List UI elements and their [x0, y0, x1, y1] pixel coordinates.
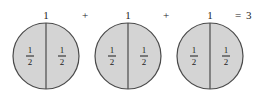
- whole-label-2: 1: [121, 10, 135, 21]
- whole-circle-1: 1 2 1 2: [12, 22, 80, 90]
- fraction-3-left: 1 2: [186, 46, 202, 67]
- fraction-1-left: 1 2: [22, 46, 38, 67]
- fraction-denominator: 2: [22, 57, 38, 67]
- fraction-denominator: 2: [54, 57, 70, 67]
- fraction-numerator: 1: [22, 46, 38, 56]
- fraction-numerator: 1: [104, 46, 120, 56]
- fraction-denominator: 2: [104, 57, 120, 67]
- fraction-numerator: 1: [218, 46, 234, 56]
- whole-label-1: 1: [39, 10, 53, 21]
- fraction-2-right: 1 2: [136, 46, 152, 67]
- whole-circle-2: 1 2 1 2: [94, 22, 162, 90]
- plus-operator-2: +: [159, 10, 173, 21]
- fraction-addition-figure: 1 + 1 + 1 = 3 1 2 1 2 1 2: [0, 0, 270, 100]
- fraction-numerator: 1: [136, 46, 152, 56]
- fraction-numerator: 1: [186, 46, 202, 56]
- whole-circle-3: 1 2 1 2: [176, 22, 244, 90]
- fraction-2-left: 1 2: [104, 46, 120, 67]
- fraction-denominator: 2: [136, 57, 152, 67]
- fraction-numerator: 1: [54, 46, 70, 56]
- whole-label-3: 1: [203, 10, 217, 21]
- result-label: = 3: [235, 10, 265, 21]
- plus-operator-1: +: [78, 10, 92, 21]
- fraction-denominator: 2: [218, 57, 234, 67]
- fraction-denominator: 2: [186, 57, 202, 67]
- fraction-3-right: 1 2: [218, 46, 234, 67]
- fraction-1-right: 1 2: [54, 46, 70, 67]
